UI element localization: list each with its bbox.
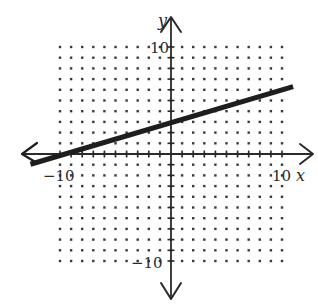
plotted-line [22, 87, 293, 165]
y-axis-label: y [157, 11, 168, 30]
y-max-label: 10 [150, 39, 169, 57]
x-max-label: 10 [272, 167, 291, 185]
axes [24, 17, 313, 299]
coordinate-graph: y 10 −10 10 x −10 [0, 0, 318, 307]
y-min-label: −10 [131, 254, 163, 272]
x-axis-label: x [296, 166, 305, 185]
x-min-label: −10 [43, 167, 75, 185]
